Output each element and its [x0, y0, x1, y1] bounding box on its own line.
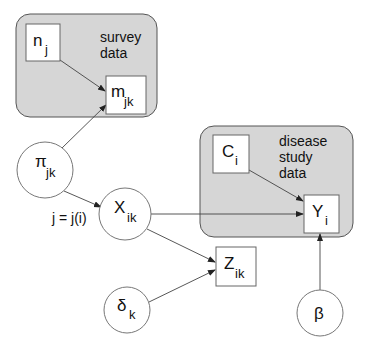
graphical-model-diagram: survey data disease study data j = j(i) …	[0, 0, 369, 352]
disease-plate-label-line1: disease	[279, 133, 327, 149]
node-beta-main: β	[314, 304, 324, 323]
node-c-i: C i	[213, 135, 249, 173]
node-x-ik: X ik	[99, 188, 151, 240]
edge-label-j-equals-j-of-i: j = j(i)	[51, 210, 87, 226]
node-pi-jk: π jk	[17, 142, 73, 198]
node-delta-k: δ k	[104, 287, 150, 333]
disease-plate-label-line3: data	[279, 165, 306, 181]
node-c-main: C	[222, 142, 234, 161]
node-x-sub: ik	[127, 210, 137, 225]
node-y-i: Y i	[304, 195, 339, 233]
node-pi-main: π	[35, 152, 47, 171]
node-pi-sub: jk	[45, 165, 56, 180]
node-n-j: n j	[26, 24, 60, 61]
node-beta: β	[297, 290, 343, 336]
node-m-jk: m jk	[106, 76, 146, 114]
node-y-main: Y	[312, 202, 323, 221]
node-m-sub: jk	[123, 94, 134, 109]
node-z-sub: ik	[235, 266, 245, 281]
survey-plate-label-line1: survey	[100, 29, 141, 45]
node-delta-main: δ	[117, 296, 126, 315]
edge-pi-to-x	[64, 191, 101, 207]
node-c-sub: i	[235, 153, 238, 168]
node-z-ik: Z ik	[216, 247, 256, 286]
node-y-sub: i	[325, 213, 328, 228]
disease-plate-label-line2: study	[279, 149, 312, 165]
survey-plate-label-line2: data	[100, 45, 127, 61]
node-n-main: n	[33, 31, 42, 50]
node-delta-sub: k	[129, 307, 136, 322]
node-z-main: Z	[224, 254, 234, 273]
node-x-main: X	[114, 198, 125, 217]
edge-delta-to-z	[149, 270, 215, 302]
node-n-sub: j	[44, 42, 48, 57]
